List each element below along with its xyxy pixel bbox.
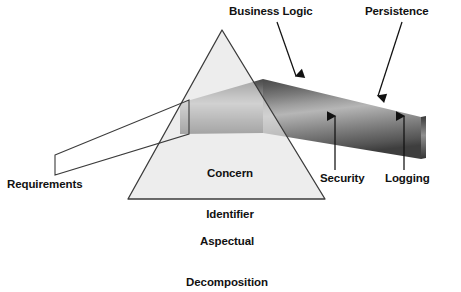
label-business-logic: Business Logic — [229, 5, 313, 19]
label-security: Security — [320, 172, 365, 186]
label-concern-identifier-line1: Concern — [178, 167, 282, 181]
label-aspectual-line1: Aspectual — [159, 235, 295, 249]
label-aspectual-line2: Decomposition — [159, 276, 295, 290]
arrow-business-logic — [277, 22, 296, 76]
label-persistence: Persistence — [365, 5, 428, 19]
label-aspectual-decomposition: Aspectual Decomposition — [159, 208, 295, 292]
label-logging: Logging — [385, 172, 430, 186]
label-requirements: Requirements — [7, 178, 83, 192]
arrow-persistence — [378, 22, 402, 96]
beam-end-cap — [421, 116, 426, 159]
